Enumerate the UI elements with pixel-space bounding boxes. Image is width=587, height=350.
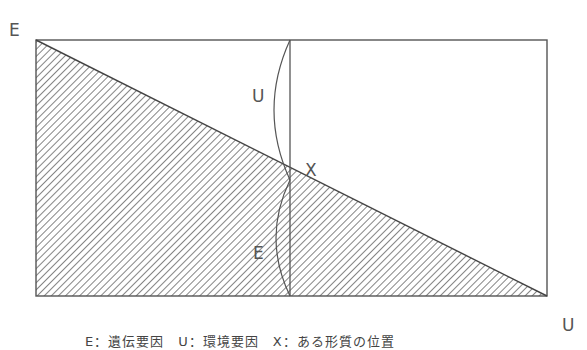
label-e-top-left: E: [9, 22, 20, 39]
label-u-bottom-right: U: [562, 317, 574, 334]
label-u-upper-arc: U: [252, 88, 264, 105]
label-x-intersection: X: [305, 162, 317, 179]
figure-caption: E：遺伝要因 U：環境要因 X：ある形質の位置: [85, 331, 395, 350]
upper-arc-u: [274, 40, 290, 180]
label-e-lower-arc: E: [253, 245, 264, 262]
